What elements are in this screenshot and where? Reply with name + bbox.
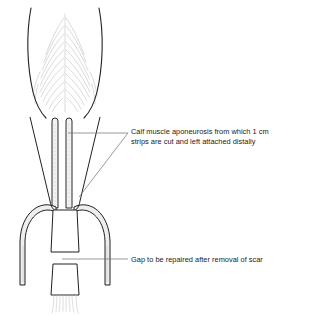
canvas-background (0, 0, 311, 316)
aponeurosis-label-line1: Calf muscle aponeurosis from which 1 cm (131, 127, 269, 136)
aponeurosis-label-line2: strips are cut and left attached distall… (131, 137, 256, 146)
tendon-stump-distal (51, 264, 79, 295)
figure-root: Calf muscle aponeurosis from which 1 cm … (0, 0, 311, 316)
gap-label-line1: Gap to be repaired after removal of scar (131, 255, 263, 264)
anatomical-diagram: Calf muscle aponeurosis from which 1 cm … (0, 0, 311, 316)
tendon-stump-proximal (51, 210, 79, 252)
